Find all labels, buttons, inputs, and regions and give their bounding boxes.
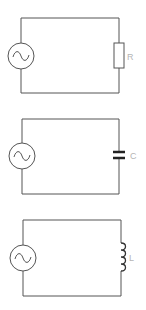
circuit-diagram: R C L <box>0 0 146 310</box>
resistor-circuit <box>8 18 124 93</box>
resistor-label: R <box>127 52 134 62</box>
wire <box>23 220 121 296</box>
capacitor-circuit <box>9 119 125 194</box>
wire <box>22 119 119 194</box>
capacitor-label: C <box>130 151 137 161</box>
inductor-label: L <box>129 253 134 263</box>
resistor-icon <box>114 43 124 68</box>
ac-source-icon <box>10 245 36 271</box>
capacitor-icon <box>113 152 125 158</box>
inductor-icon <box>121 243 126 271</box>
wire <box>21 18 119 93</box>
ac-source-icon <box>8 43 34 69</box>
ac-source-icon <box>9 143 35 169</box>
inductor-circuit <box>10 220 126 296</box>
